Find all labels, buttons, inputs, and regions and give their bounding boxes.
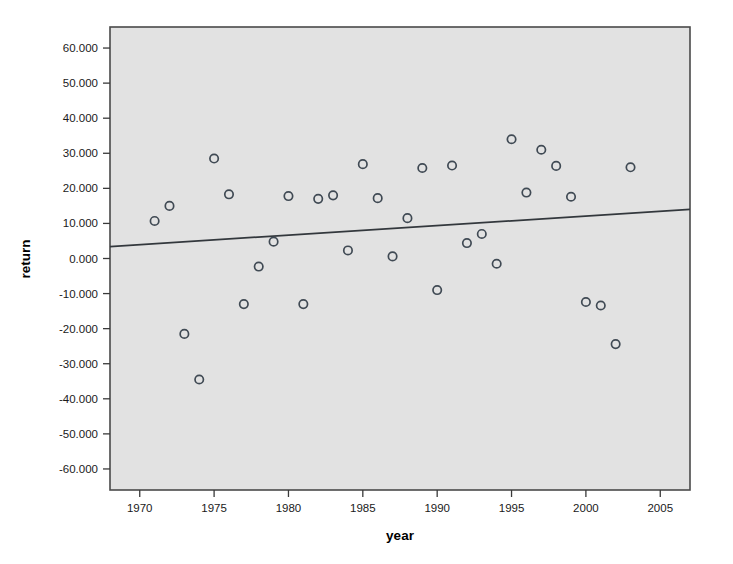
- y-tick-label: 0.000: [69, 253, 98, 265]
- y-axis-ticks: 60.00050.00040.00030.00020.00010.0000.00…: [59, 42, 110, 475]
- y-tick-label: -20.000: [59, 323, 98, 335]
- x-tick-label: 1985: [350, 502, 376, 514]
- y-tick-label: 10.000: [63, 217, 98, 229]
- y-tick-label: -30.000: [59, 358, 98, 370]
- x-tick-label: 2005: [647, 502, 673, 514]
- x-tick-label: 1995: [499, 502, 525, 514]
- plot-area-background: [110, 27, 690, 490]
- y-tick-label: 50.000: [63, 77, 98, 89]
- chart-canvas: 60.00050.00040.00030.00020.00010.0000.00…: [0, 0, 733, 564]
- y-tick-label: 60.000: [63, 42, 98, 54]
- scatter-plot-chart: 60.00050.00040.00030.00020.00010.0000.00…: [0, 0, 733, 564]
- y-tick-label: -50.000: [59, 428, 98, 440]
- y-tick-label: -10.000: [59, 288, 98, 300]
- x-tick-label: 1990: [424, 502, 450, 514]
- x-tick-label: 1975: [201, 502, 227, 514]
- y-tick-label: 20.000: [63, 182, 98, 194]
- x-axis-title: year: [386, 528, 415, 543]
- x-tick-label: 1970: [127, 502, 153, 514]
- y-axis-title: return: [18, 239, 33, 278]
- y-tick-label: -60.000: [59, 463, 98, 475]
- y-tick-label: -40.000: [59, 393, 98, 405]
- x-tick-label: 1980: [276, 502, 302, 514]
- x-axis-ticks: 19701975198019851990199520002005: [127, 490, 673, 514]
- y-tick-label: 30.000: [63, 147, 98, 159]
- y-tick-label: 40.000: [63, 112, 98, 124]
- x-tick-label: 2000: [573, 502, 599, 514]
